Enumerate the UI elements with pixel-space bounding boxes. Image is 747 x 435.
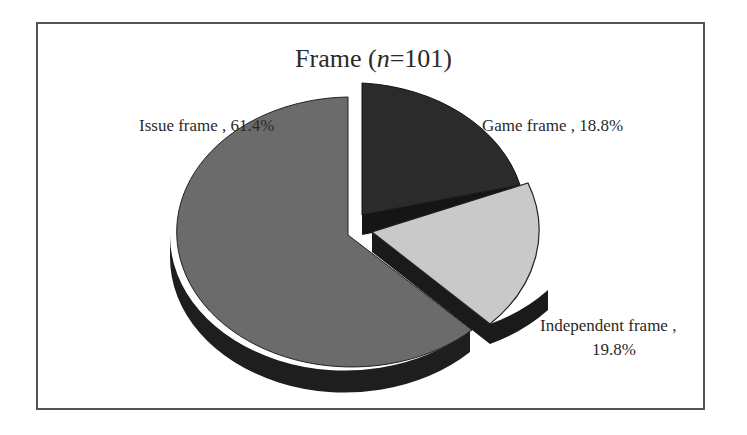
label-independent-frame: Independent frame ,: [540, 316, 676, 336]
label-independent-frame-value: 19.8%: [592, 340, 636, 360]
label-game-frame: Game frame , 18.8%: [482, 116, 623, 136]
pie-chart: [0, 0, 747, 435]
label-issue-frame: Issue frame , 61.4%: [139, 116, 275, 136]
